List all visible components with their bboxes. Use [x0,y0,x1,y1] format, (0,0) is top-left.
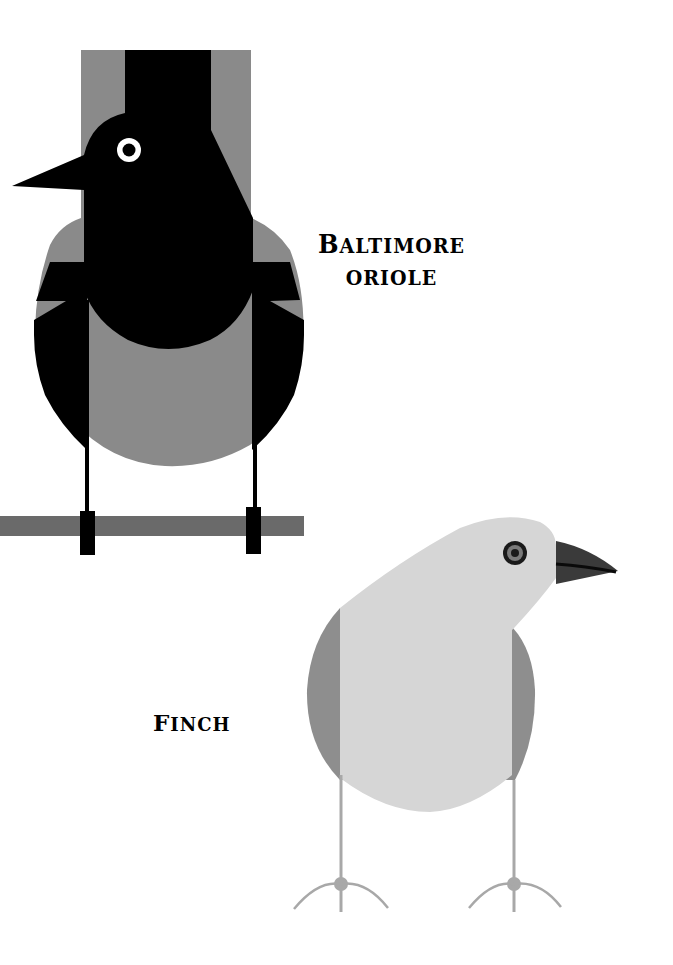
finch-label: Finch [153,709,231,736]
oriole-right-foot [246,507,261,554]
finch-illustration [294,517,618,912]
oriole-left-foot [80,511,95,555]
oriole-right-wing [252,262,304,450]
oriole-label-line1: Baltimore [318,229,465,262]
bird-poster: Baltimore oriole Finch [0,0,673,965]
oriole-left-wing [34,262,87,450]
oriole-illustration [0,50,304,555]
oriole-label-line2: oriole [318,262,465,294]
bird-illustrations [0,0,673,965]
finch-beak [556,541,618,584]
oriole-right-leg [253,300,257,515]
oriole-label: Baltimore oriole [318,229,465,293]
oriole-left-leg [85,300,89,515]
